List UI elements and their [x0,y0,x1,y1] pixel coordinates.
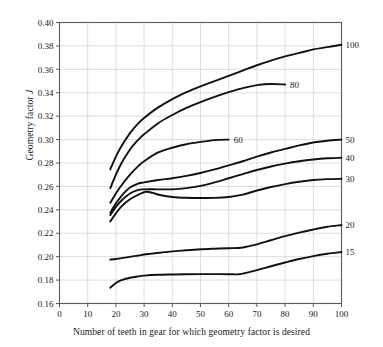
y-tick-label: 0.40 [38,18,54,28]
grid-lines [60,23,342,304]
x-tick-label: 50 [196,309,206,319]
curve-50 [110,140,341,213]
x-tick-label: 70 [252,309,262,319]
y-tick-label: 0.30 [38,135,54,145]
x-tick-label: 40 [168,309,178,319]
chart-canvas: 0102030405060708090100 0.160.180.200.220… [0,0,383,347]
curve-label-50: 50 [346,135,356,145]
y-axis-label-symbol: J [25,90,35,94]
y-axis-label: Geometry factor J [25,35,35,215]
y-tick-label: 0.38 [38,41,54,51]
x-axis-label: Number of teeth in gear for which geomet… [0,327,383,337]
x-tick-label: 60 [224,309,234,319]
y-tick-label: 0.20 [38,252,54,262]
y-tick-label: 0.24 [38,205,54,215]
x-tick-label: 30 [140,309,150,319]
x-tick-label: 10 [83,309,93,319]
curve-30 [110,179,341,222]
x-tick-label: 0 [57,309,62,319]
y-axis-label-text: Geometry factor [25,94,35,161]
y-tick-label: 0.36 [38,65,54,75]
curve-label-60: 60 [234,135,244,145]
curve-100 [110,45,341,170]
axis-ticks [56,23,342,308]
y-tick-label: 0.32 [38,111,54,121]
x-tick-label: 90 [309,309,319,319]
y-tick-label: 0.16 [38,299,54,309]
x-tick-label: 80 [281,309,291,319]
curve-label-20: 20 [346,220,356,230]
x-tick-label: 20 [111,309,121,319]
data-curves [110,45,341,288]
y-tick-label: 0.22 [38,228,54,238]
curve-label-30: 30 [346,174,356,184]
y-tick-labels: 0.160.180.200.220.240.260.280.300.320.34… [38,18,54,309]
curve-label-80: 80 [290,80,300,90]
y-tick-label: 0.26 [38,182,54,192]
curve-80 [110,84,285,188]
y-tick-label: 0.28 [38,158,54,168]
curve-15 [110,252,341,288]
curve-20 [110,225,341,260]
x-tick-labels: 0102030405060708090100 [57,309,349,319]
y-tick-label: 0.18 [38,275,54,285]
curve-label-15: 15 [346,247,356,257]
y-tick-label: 0.34 [38,88,54,98]
curve-label-100: 100 [346,40,360,50]
x-tick-label: 100 [335,309,349,319]
geometry-factor-chart: 0102030405060708090100 0.160.180.200.220… [0,0,383,347]
curve-label-40: 40 [346,153,356,163]
